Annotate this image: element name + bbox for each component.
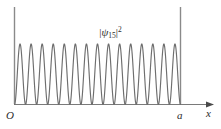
figure-container: |ψ15|2 O a x [0, 0, 221, 129]
square-well-plot [0, 0, 221, 129]
psi-subscript: 15 [108, 31, 116, 40]
probability-density-curve [15, 44, 181, 105]
x-axis-label: x [206, 108, 211, 119]
psi-exponent: 2 [118, 25, 122, 34]
well-width-label: a [177, 110, 183, 121]
origin-label: O [6, 110, 14, 121]
curve-label: |ψ15|2 [0, 26, 221, 40]
